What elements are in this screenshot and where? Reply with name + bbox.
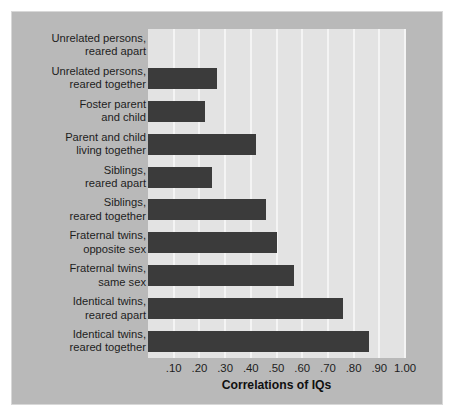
bar-row: Siblings, reared together bbox=[12, 193, 444, 226]
bar-track bbox=[148, 259, 405, 292]
bar-row: Foster parent and child bbox=[12, 95, 444, 128]
x-tick-label: .60 bbox=[294, 362, 310, 374]
bar-row: Siblings, reared apart bbox=[12, 161, 444, 194]
bar-track bbox=[148, 161, 405, 194]
category-label: Unrelated persons, reared together bbox=[0, 65, 146, 92]
bar-track bbox=[148, 226, 405, 259]
bar-track bbox=[148, 292, 405, 325]
category-label: Foster parent and child bbox=[0, 98, 146, 125]
x-axis-ticks: .10.20.30.40.50.60.70.80.901.00 bbox=[148, 362, 414, 378]
bar-row: Unrelated persons, reared apart bbox=[12, 29, 444, 62]
bar bbox=[148, 265, 294, 286]
bar-track bbox=[148, 193, 405, 226]
bar-row: Fraternal twins, opposite sex bbox=[12, 226, 444, 259]
chart-plot-region: Unrelated persons, reared apartUnrelated… bbox=[12, 12, 444, 406]
bar-track bbox=[148, 325, 405, 358]
x-tick-label: .90 bbox=[371, 362, 387, 374]
bar-rows: Unrelated persons, reared apartUnrelated… bbox=[12, 29, 444, 358]
bar-track bbox=[148, 128, 405, 161]
bar-row: Fraternal twins, same sex bbox=[12, 259, 444, 292]
bar bbox=[148, 298, 343, 319]
category-label: Fraternal twins, opposite sex bbox=[0, 229, 146, 256]
bar-row: Parent and child living together bbox=[12, 128, 444, 161]
bar bbox=[148, 232, 277, 253]
x-tick-label: .70 bbox=[320, 362, 336, 374]
category-label: Unrelated persons, reared apart bbox=[0, 32, 146, 59]
x-tick-label: .30 bbox=[217, 362, 233, 374]
bar-track bbox=[148, 95, 405, 128]
x-tick-label: .20 bbox=[191, 362, 207, 374]
x-tick-label: .50 bbox=[269, 362, 285, 374]
bar-track bbox=[148, 29, 405, 62]
bar bbox=[148, 101, 205, 122]
x-tick-label: .10 bbox=[166, 362, 182, 374]
x-tick-label: .40 bbox=[243, 362, 259, 374]
x-tick-label: .80 bbox=[346, 362, 362, 374]
category-label: Parent and child living together bbox=[0, 131, 146, 158]
x-tick-label: 1.00 bbox=[394, 362, 416, 374]
bar-row: Unrelated persons, reared together bbox=[12, 62, 444, 95]
bar bbox=[148, 199, 266, 220]
category-label: Identical twins, reared together bbox=[0, 328, 146, 355]
bar-track bbox=[148, 62, 405, 95]
x-axis-title: Correlations of IQs bbox=[148, 378, 405, 392]
category-label: Identical twins, reared apart bbox=[0, 295, 146, 322]
category-label: Siblings, reared together bbox=[0, 196, 146, 223]
bar bbox=[148, 167, 212, 188]
bar bbox=[148, 68, 217, 89]
bar-row: Identical twins, reared apart bbox=[12, 292, 444, 325]
category-label: Fraternal twins, same sex bbox=[0, 262, 146, 289]
bar bbox=[148, 134, 256, 155]
chart-figure: Unrelated persons, reared apartUnrelated… bbox=[11, 11, 443, 405]
category-label: Siblings, reared apart bbox=[0, 164, 146, 191]
bar bbox=[148, 331, 369, 352]
bar-row: Identical twins, reared together bbox=[12, 325, 444, 358]
